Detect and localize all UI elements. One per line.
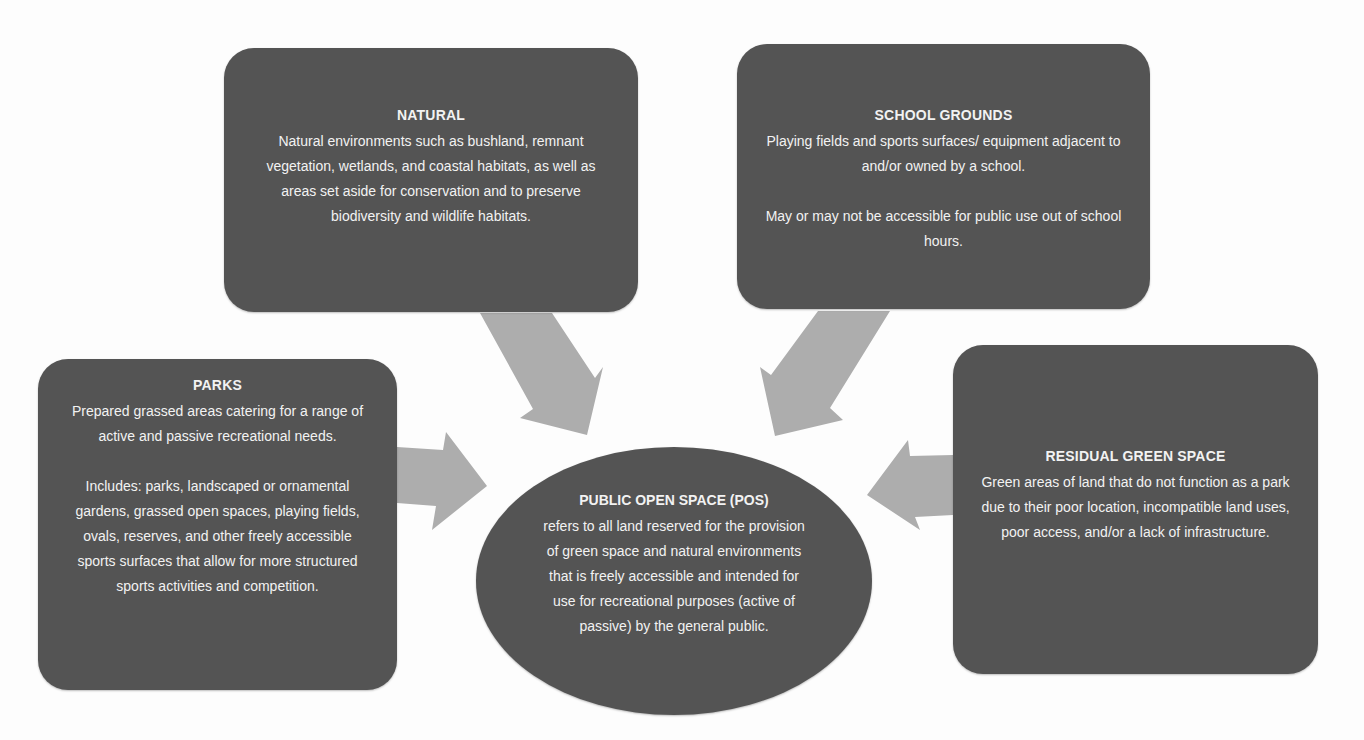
public-open-space-hub: PUBLIC OPEN SPACE (POS) refers to all la… bbox=[476, 447, 872, 715]
hub-description: refers to all land reserved for the prov… bbox=[539, 514, 809, 639]
description-paragraph: Playing fields and sports surfaces/ equi… bbox=[764, 129, 1124, 179]
description-paragraph: Includes: parks, landscaped or ornamenta… bbox=[63, 474, 373, 599]
arrow-right-icon bbox=[397, 432, 487, 530]
category-natural-title: NATURAL bbox=[397, 106, 465, 125]
pos-diagram: NATURAL Natural environments such as bus… bbox=[0, 0, 1364, 740]
hub-title: PUBLIC OPEN SPACE (POS) bbox=[579, 491, 769, 510]
arrow-down-right-icon bbox=[480, 313, 603, 435]
category-parks-title: PARKS bbox=[193, 376, 242, 395]
arrow-down-left-icon bbox=[760, 311, 890, 436]
category-parks-description: Prepared grassed areas catering for a ra… bbox=[63, 399, 373, 599]
category-natural: NATURAL Natural environments such as bus… bbox=[224, 48, 638, 312]
category-residual-green-space: RESIDUAL GREEN SPACE Green areas of land… bbox=[953, 345, 1318, 674]
category-school-grounds-description: Playing fields and sports surfaces/ equi… bbox=[764, 129, 1124, 254]
description-paragraph: Green areas of land that do not function… bbox=[976, 470, 1296, 545]
description-paragraph: Prepared grassed areas catering for a ra… bbox=[63, 399, 373, 449]
category-school-grounds-title: SCHOOL GROUNDS bbox=[875, 106, 1013, 125]
category-natural-description: Natural environments such as bushland, r… bbox=[251, 129, 611, 229]
description-paragraph: May or may not be accessible for public … bbox=[764, 204, 1124, 254]
category-residual-green-space-title: RESIDUAL GREEN SPACE bbox=[1045, 447, 1225, 466]
category-residual-green-space-description: Green areas of land that do not function… bbox=[976, 470, 1296, 545]
description-paragraph: Natural environments such as bushland, r… bbox=[251, 129, 611, 229]
arrow-left-icon bbox=[867, 440, 953, 530]
category-school-grounds: SCHOOL GROUNDS Playing fields and sports… bbox=[737, 44, 1150, 309]
category-parks: PARKS Prepared grassed areas catering fo… bbox=[38, 359, 397, 690]
